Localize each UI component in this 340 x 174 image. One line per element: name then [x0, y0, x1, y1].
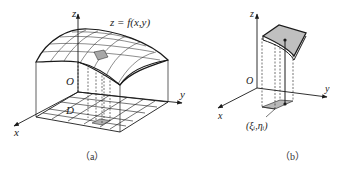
origin-label-a: O: [66, 75, 74, 87]
figure-b: z x y O (ξᵢ,ηᵢ) （b）: [217, 8, 330, 162]
y-axis-b: [257, 88, 327, 97]
x-axis-label-b: x: [217, 110, 223, 121]
diagram-canvas: z x y O z = f(x,y) D （a）: [0, 0, 340, 174]
z-axis-label-a: z: [71, 7, 77, 19]
z-axis-label-b: z: [249, 8, 254, 19]
region-d-label: D: [65, 104, 74, 116]
surface-point: [283, 38, 286, 41]
y-axis-label-a: y: [179, 88, 185, 100]
caption-b: （b）: [280, 151, 305, 162]
axes-b: [218, 14, 327, 108]
x-axis-label-a: x: [13, 126, 19, 138]
x-axis-b: [218, 88, 257, 108]
figure-a: z x y O z = f(x,y) D （a）: [13, 7, 185, 162]
caption-a: （a）: [80, 151, 104, 162]
origin-label-b: O: [246, 75, 253, 86]
base-point: [283, 102, 286, 105]
point-label: (ξᵢ,ηᵢ): [246, 120, 268, 132]
surface-equation-label: z = f(x,y): [109, 16, 150, 29]
y-axis-label-b: y: [324, 83, 330, 94]
